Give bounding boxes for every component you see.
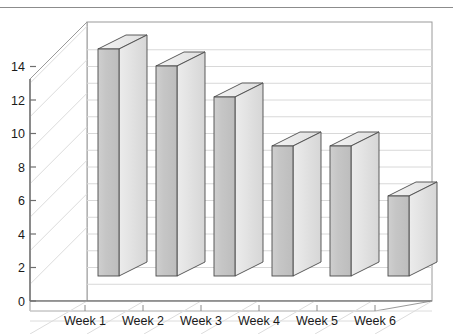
y-tick-label: 0 — [18, 295, 25, 309]
chart-figure: 0 2 4 6 8 10 12 14 — [0, 0, 453, 334]
bar-side-face — [177, 52, 205, 276]
y-tick-label: 10 — [11, 127, 25, 141]
y-tick-label: 4 — [18, 228, 25, 242]
y-axis-tick-labels: 0 2 4 6 8 10 12 14 — [11, 60, 25, 309]
bar-side-face — [409, 182, 437, 276]
y-tick-label: 6 — [18, 194, 25, 208]
floor-outline — [30, 301, 432, 311]
bar-column[interactable] — [156, 52, 205, 276]
bar-column[interactable] — [388, 182, 437, 276]
x-tick-label: Week 6 — [354, 314, 396, 328]
bar-column[interactable] — [272, 132, 321, 276]
bar-side-face — [235, 83, 263, 276]
bar-column[interactable] — [98, 35, 147, 276]
bar-side-face — [351, 132, 379, 276]
y-tick-label: 12 — [11, 94, 25, 108]
bar-side-face — [293, 132, 321, 276]
y-tick-label: 14 — [11, 60, 25, 74]
x-tick-label: Week 4 — [238, 314, 280, 328]
bar-front-face — [214, 97, 235, 276]
bar-column[interactable] — [330, 132, 379, 276]
y-tick-label: 2 — [18, 261, 25, 275]
y-tick-label: 8 — [18, 161, 25, 175]
x-tick-label: Week 5 — [296, 314, 338, 328]
bar-front-face — [156, 66, 177, 276]
bar-front-face — [388, 196, 409, 276]
bar-column[interactable] — [214, 83, 263, 276]
bar-front-face — [98, 49, 119, 276]
x-tick-label: Week 3 — [180, 314, 222, 328]
x-tick-label: Week 1 — [64, 314, 106, 328]
bar-front-face — [330, 146, 351, 276]
bar-chart-3d: 0 2 4 6 8 10 12 14 — [0, 0, 453, 334]
x-tick-label: Week 2 — [122, 314, 164, 328]
bar-front-face — [272, 146, 293, 276]
bar-side-face — [119, 35, 147, 276]
left-wall — [30, 22, 87, 301]
